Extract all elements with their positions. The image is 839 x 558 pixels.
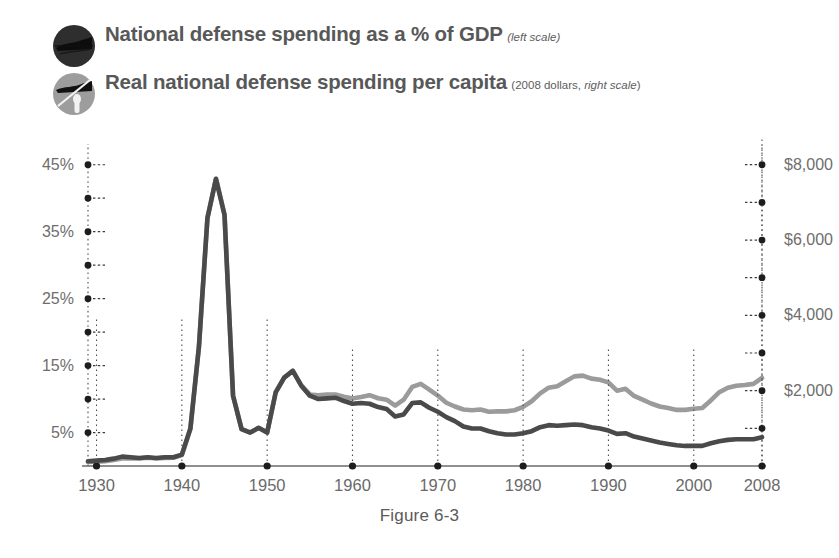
y-tick-major [85, 295, 92, 302]
chart-svg [0, 0, 839, 520]
y-axis-tick-label: 35% [0, 223, 74, 241]
x-tick [605, 462, 612, 469]
y-axis-tick-label: 15% [0, 357, 74, 375]
y2-tick-major [759, 237, 766, 244]
y-axis-tick-label: 5% [0, 424, 74, 442]
x-axis-tick-label: 1950 [249, 476, 286, 495]
x-axis-tick-label: 1980 [505, 476, 542, 495]
y-tick-major [85, 228, 92, 235]
x-tick [434, 462, 441, 469]
x-axis-tick-label: 1970 [419, 476, 456, 495]
x-tick [690, 462, 697, 469]
y2-tick-major [759, 312, 766, 319]
x-tick [349, 462, 356, 469]
y-tick-minor [85, 262, 92, 269]
y-axis-tick-label: 25% [0, 290, 74, 308]
x-axis-tick-label: 2000 [675, 476, 712, 495]
figure-root: National defense spending as a % of GDP … [0, 0, 839, 558]
y2-tick-minor [759, 425, 766, 432]
y2-tick-major [759, 161, 766, 168]
x-tick [520, 462, 527, 469]
y-tick-minor [85, 329, 92, 336]
y2-tick-minor [759, 199, 766, 206]
y-tick-minor [85, 396, 92, 403]
y2-tick-major [759, 387, 766, 394]
series-line-gdp-share [88, 179, 762, 462]
x-tick [264, 462, 271, 469]
x-axis-tick-label: 1930 [78, 476, 115, 495]
y-tick-minor [85, 195, 92, 202]
y2-axis-tick-label: $2,000 [784, 382, 833, 400]
y2-axis-tick-label: $8,000 [784, 156, 833, 174]
y2-tick-minor [759, 274, 766, 281]
x-tick [93, 462, 100, 469]
x-tick [758, 462, 765, 469]
y-tick-major [85, 362, 92, 369]
y-tick-major [85, 429, 92, 436]
x-axis-tick-label: 1960 [334, 476, 371, 495]
x-axis-tick-label: 1990 [590, 476, 627, 495]
figure-caption: Figure 6-3 [0, 506, 839, 526]
y2-axis-tick-label: $4,000 [784, 306, 833, 324]
y-tick-major [85, 161, 92, 168]
y-axis-tick-label: 45% [0, 156, 74, 174]
y2-axis-tick-label: $6,000 [784, 231, 833, 249]
x-tick [178, 462, 185, 469]
y2-tick-minor [759, 350, 766, 357]
x-axis-tick-label: 1940 [163, 476, 200, 495]
chart-plot-area: 5%15%25%35%45%$2,000$4,000$6,000$8,00019… [0, 0, 839, 520]
x-axis-tick-label: 2008 [744, 476, 781, 495]
